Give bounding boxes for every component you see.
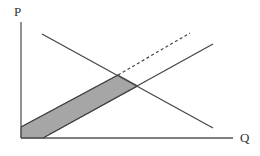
supply-line	[43, 44, 213, 138]
supply-demand-diagram	[0, 0, 260, 156]
shaded-wedge	[21, 75, 138, 138]
x-axis-label: Q	[240, 130, 249, 146]
y-axis-label: P	[14, 4, 21, 20]
supply-shifted-dashed-line	[118, 33, 190, 75]
